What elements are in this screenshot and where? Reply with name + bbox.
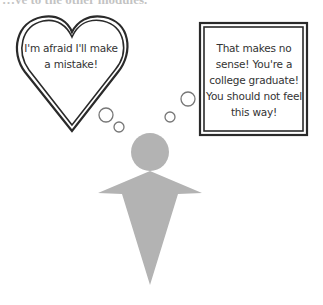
box-text-line: sense! You're a <box>206 56 302 72</box>
box-text-line: You should not feel <box>206 88 302 104</box>
box-text-line: That makes no <box>206 40 302 56</box>
heart-text-line: a mistake! <box>22 56 120 72</box>
heart-text-line: I'm afraid I'll make <box>22 40 120 56</box>
thought-circle-small-left <box>114 122 124 132</box>
heart-bubble-text: I'm afraid I'll make a mistake! <box>22 40 120 72</box>
person-head <box>131 133 169 171</box>
person-body <box>98 171 202 285</box>
box-bubble-text: That makes no sense! You're a college gr… <box>206 40 302 120</box>
illustration-canvas: …ve to the other modules. I'm afraid I'l… <box>0 0 323 305</box>
box-text-line: college graduate! <box>206 72 302 88</box>
box-text-line: this way! <box>206 104 302 120</box>
thought-circle-large-right <box>181 92 195 106</box>
person-figure <box>98 133 202 285</box>
thought-circle-small-right <box>165 112 175 122</box>
thought-circle-large-left <box>99 108 113 122</box>
